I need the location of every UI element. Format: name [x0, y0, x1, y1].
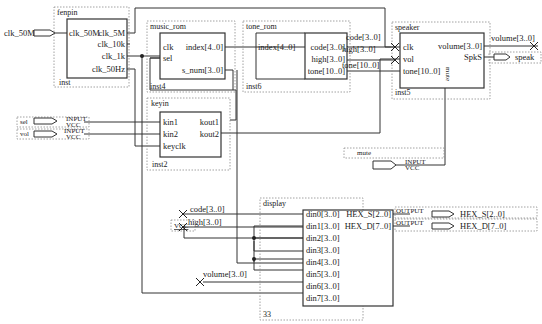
block-name: keyin — [151, 99, 169, 108]
output-pin-icon — [494, 54, 510, 60]
pin-label: mute — [357, 149, 371, 157]
port-din4: din4[3..0] — [306, 257, 340, 267]
port-hex-s: HEX_S[2..0] — [346, 209, 391, 219]
port-clk-10k: clk_10k — [98, 39, 126, 49]
net-label-volume: volume[3..0] — [491, 33, 535, 43]
input-pin-icon — [34, 118, 57, 124]
input-pin-icon — [373, 161, 396, 169]
no-connect-icon — [196, 278, 204, 286]
port-clk-50m: clk_50M — [69, 28, 100, 38]
block-music-rom[interactable]: music_rom clk sel index[4..0] s_num[3..0… — [147, 21, 235, 92]
port-volume: volume[3..0] — [438, 41, 482, 51]
port-kout1: kout1 — [200, 117, 219, 127]
port-kout2: kout2 — [200, 129, 219, 139]
port-tone: tone[10..0] — [403, 66, 440, 76]
port-keyclk: keyclk — [163, 141, 186, 151]
port-din3: din3[3..0] — [306, 245, 340, 255]
block-name: speaker — [395, 23, 420, 32]
pin-default: VCC — [66, 133, 81, 141]
pin-type: OUTPUT — [396, 219, 424, 227]
port-clk-5m: clk_5M — [99, 28, 126, 38]
vcc-label: VCC — [174, 222, 189, 230]
block-tone-rom[interactable]: tone_rom index[4..0] code[3..0] high[3..… — [243, 21, 350, 92]
instance-label: inst2 — [152, 160, 168, 169]
pin-hex-s[interactable]: OUTPUT HEX_S[2..0] — [395, 207, 537, 219]
output-pin-icon — [432, 223, 454, 229]
port-hex-d: HEX_D[7..0] — [345, 221, 391, 231]
pin-label: speak — [515, 52, 535, 62]
instance-label: inst5 — [395, 88, 411, 97]
instance-label: 33 — [263, 310, 271, 319]
port-spks: SpkS — [464, 52, 482, 62]
port-din2: din2[3..0] — [306, 233, 340, 243]
pin-hex-d[interactable]: OUTPUT HEX_D[7..0] — [395, 219, 537, 231]
pin-type: OUTPUT — [396, 207, 424, 215]
port-kin1: kin1 — [163, 117, 178, 127]
port-high: high[3..0] — [311, 54, 345, 64]
port-clk: clk — [403, 42, 414, 52]
port-mute: mute — [444, 67, 452, 81]
pin-label: HEX_D[7..0] — [460, 221, 506, 231]
port-din7: din7[3..0] — [306, 293, 340, 303]
port-din5: din5[3..0] — [306, 269, 340, 279]
port-clk: clk — [163, 42, 174, 52]
port-sel: sel — [163, 53, 173, 63]
pin-label: sel — [20, 118, 28, 126]
net-label-code-display: code[3..0] — [190, 204, 225, 214]
instance-label: inst6 — [246, 82, 262, 91]
port-code: code[3..0] — [311, 42, 346, 52]
block-name: tone_rom — [246, 22, 277, 31]
block-speaker[interactable]: speaker clk vol tone[10..0] volume[3..0]… — [392, 22, 490, 99]
net-label-code: code[3..0] — [346, 32, 381, 42]
net-label-high: high[3..0] — [342, 44, 376, 54]
port-index: index[4..0] — [186, 42, 223, 52]
pin-label: vol — [20, 130, 29, 138]
pin-speak[interactable]: speak — [489, 52, 541, 63]
block-name: music_rom — [150, 22, 187, 31]
pin-label: HEX_S[2..0] — [460, 209, 505, 219]
block-fenpin[interactable]: fenpin clk_50M clk_5M clk_10k clk_1k clk… — [54, 7, 129, 87]
pin-vol[interactable]: vol INPUT VCC — [17, 127, 89, 141]
net-label-high-display: high[3..0] — [188, 217, 222, 227]
output-pin-icon — [432, 211, 454, 217]
net-label-volume-display: volume[3..0] — [203, 269, 247, 279]
pin-label: clk_50M — [4, 28, 35, 38]
port-s-num: s_num[3..0] — [182, 65, 223, 75]
block-keyin[interactable]: keyin kin1 kin2 keyclk kout1 kout2 inst2 — [147, 98, 230, 170]
instance-label: inst4 — [150, 82, 166, 91]
port-din6: din6[3..0] — [306, 281, 340, 291]
port-clk-1k: clk_1k — [102, 51, 126, 61]
port-clk-50hz: clk_50Hz — [92, 64, 125, 74]
block-name: display — [263, 199, 286, 208]
input-pin-icon — [34, 30, 55, 36]
pin-clk-50m[interactable]: clk_50M — [4, 28, 55, 38]
input-pin-icon — [34, 131, 57, 137]
port-index: index[4..0] — [258, 42, 295, 52]
port-tone: tone[10..0] — [308, 66, 345, 76]
net-label-tone: tone[10..0] — [342, 60, 379, 70]
port-din0: din0[3..0] — [306, 209, 340, 219]
pin-mute[interactable]: mute INPUT VCC — [344, 148, 444, 172]
block-name: fenpin — [57, 8, 77, 17]
schematic-canvas: fenpin clk_50M clk_5M clk_10k clk_1k clk… — [0, 0, 542, 324]
port-din1: din1[3..0] — [306, 221, 340, 231]
port-vol: vol — [403, 54, 415, 64]
instance-label: inst — [59, 78, 71, 87]
port-kin2: kin2 — [163, 129, 178, 139]
